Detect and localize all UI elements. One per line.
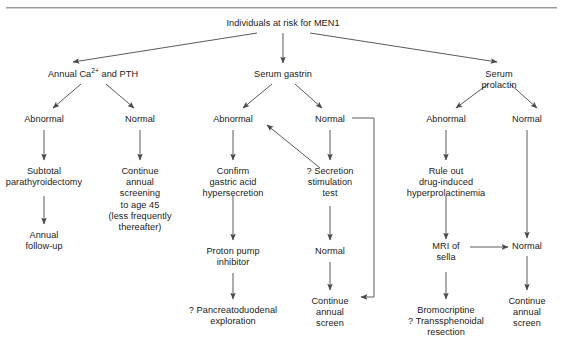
node-gastrin-abnormal: Abnormal bbox=[213, 114, 253, 125]
node-secretion-stimulation-test: ? Secretion stimulation test bbox=[306, 166, 353, 200]
edge-gastrin-normal-elbow-to-continue bbox=[352, 118, 374, 297]
node-root: Individuals at risk for MEN1 bbox=[226, 18, 339, 29]
edge-calcium-to-abnormal bbox=[53, 84, 81, 108]
node-prolactin-continue-annual-screen: Continue annual screen bbox=[508, 296, 545, 330]
node-mri-of-sella: MRI of sella bbox=[432, 241, 459, 263]
edge-calcium-to-normal bbox=[106, 84, 134, 108]
edge-gastrin-to-abnormal bbox=[243, 84, 272, 108]
node-serum-gastrin: Serum gastrin bbox=[254, 69, 312, 80]
node-annual-followup: Annual follow-up bbox=[25, 230, 62, 252]
node-calcium-normal: Normal bbox=[125, 114, 155, 125]
node-gastrin-continue-annual-screen: Continue annual screen bbox=[311, 296, 348, 330]
calcium-charge-superscript: 2+ bbox=[91, 67, 99, 74]
edge-root-to-calcium bbox=[73, 33, 257, 62]
node-gastrin-normal: Normal bbox=[315, 114, 345, 125]
node-calcium-abnormal: Abnormal bbox=[24, 114, 64, 125]
calcium-label-prefix: Annual Ca bbox=[48, 69, 91, 79]
node-annual-calcium-pth: Annual Ca2+ and PTH bbox=[48, 69, 138, 80]
node-serum-prolactin: Serum prolactin bbox=[467, 69, 531, 91]
node-prolactin-abnormal: Abnormal bbox=[426, 114, 466, 125]
edge-gastrin-to-normal bbox=[295, 84, 322, 108]
node-prolactin-normal: Normal bbox=[512, 114, 542, 125]
node-proton-pump-inhibitor: Proton pump inhibitor bbox=[206, 246, 259, 268]
node-secretion-test-normal: Normal bbox=[315, 246, 345, 257]
node-rule-out-drug-induced-hyperprolactinemia: Rule out drug-induced hyperprolactinemia bbox=[407, 166, 486, 200]
node-pancreatoduodenal-exploration: ? Pancreatoduodenal exploration bbox=[189, 305, 277, 327]
top-divider-rule bbox=[6, 7, 557, 9]
node-subtotal-parathyroidectomy: Subtotal parathyroidectomy bbox=[6, 166, 82, 188]
edge-secretion-to-abnormal bbox=[267, 125, 320, 168]
edge-root-to-prolactin bbox=[310, 33, 497, 62]
calcium-label-suffix: and PTH bbox=[99, 69, 138, 79]
flowchart-page: Individuals at risk for MEN1 Annual Ca2+… bbox=[0, 0, 563, 352]
node-mri-normal: Normal bbox=[512, 241, 542, 252]
node-confirm-gastric-acid-hypersecretion: Confirm gastric acid hypersecretion bbox=[203, 166, 264, 200]
node-continue-annual-screening-age45: Continue annual screening to age 45 (les… bbox=[108, 166, 171, 233]
node-bromocriptine-transsphenoidal-resection: Bromocriptine ? Transsphenoidal resectio… bbox=[408, 305, 484, 339]
